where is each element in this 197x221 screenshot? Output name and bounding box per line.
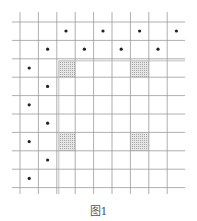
- shaded-cell: [59, 61, 75, 77]
- dot-marker: [28, 103, 31, 106]
- dot-marker: [64, 29, 67, 32]
- shaded-cell: [130, 61, 148, 77]
- dot-marker: [28, 140, 31, 143]
- shaded-cell: [59, 132, 75, 150]
- horizontal-grid-lines: [12, 22, 185, 188]
- dot-marker: [46, 48, 49, 51]
- dot-marker: [138, 29, 141, 32]
- dot-marker: [28, 177, 31, 180]
- grid-figure: [0, 0, 197, 221]
- dot-marker: [175, 29, 178, 32]
- dot-marker: [46, 158, 49, 161]
- dot-marker: [120, 48, 123, 51]
- figure-caption: 图1: [0, 202, 197, 218]
- dot-marker: [46, 85, 49, 88]
- shaded-cells: [59, 61, 149, 151]
- dot-markers: [28, 29, 178, 180]
- dot-marker: [28, 66, 31, 69]
- dot-marker: [156, 48, 159, 51]
- dot-marker: [46, 122, 49, 125]
- shaded-cell: [130, 132, 148, 150]
- inner-frame-lines: [59, 61, 185, 194]
- dot-marker: [83, 48, 86, 51]
- dot-marker: [101, 29, 104, 32]
- vertical-grid-lines: [20, 12, 167, 194]
